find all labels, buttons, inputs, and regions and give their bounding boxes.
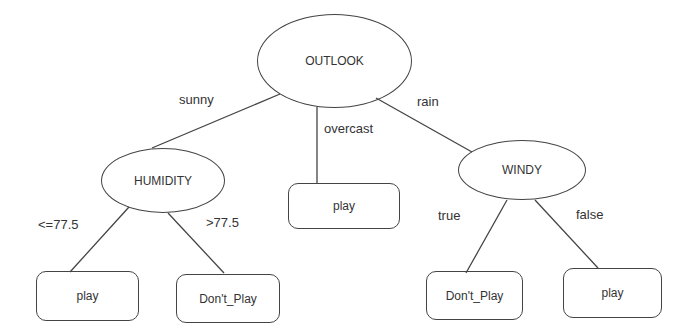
edge-le-77-5: [70, 207, 129, 272]
edge-label-rain: rain: [417, 94, 439, 109]
root-node-outlook: OUTLOOK: [257, 14, 412, 108]
leaf-dont-play-windy-true: Don't_Play: [426, 271, 523, 320]
leaf-label: Don't_Play: [199, 292, 257, 306]
leaf-label: Don't_Play: [446, 289, 504, 303]
edge-label-sunny: sunny: [179, 92, 214, 107]
leaf-label: play: [601, 286, 623, 300]
edge-label-overcast: overcast: [324, 121, 373, 136]
edge-label-le-77-5: <=77.5: [38, 217, 79, 232]
leaf-dont-play-humidity-high: Don't_Play: [176, 274, 280, 323]
edge-label-true: true: [438, 208, 460, 223]
edge-label-false: false: [576, 207, 603, 222]
leaf-play-humidity-low: play: [36, 271, 139, 321]
leaf-label: play: [76, 289, 98, 303]
node-windy: WINDY: [458, 140, 586, 200]
leaf-play-overcast: play: [288, 183, 400, 229]
edge-true: [466, 200, 507, 273]
root-node-label: OUTLOOK: [305, 54, 364, 68]
node-humidity-label: HUMIDITY: [134, 174, 192, 188]
leaf-play-windy-false: play: [563, 268, 662, 318]
edge-sunny: [152, 94, 280, 148]
edge-label-gt-77-5: >77.5: [206, 215, 239, 230]
node-windy-label: WINDY: [502, 163, 542, 177]
node-humidity: HUMIDITY: [101, 148, 225, 213]
leaf-label: play: [333, 199, 355, 213]
